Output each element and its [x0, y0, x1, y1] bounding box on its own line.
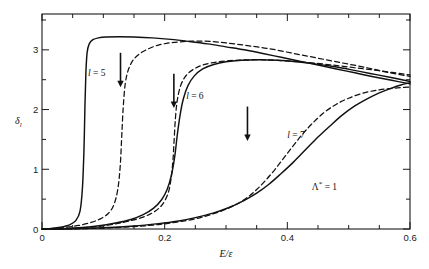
curve-l-6-dashed [42, 60, 410, 229]
curve-l-7-solid [42, 83, 410, 229]
resonance-arrow-3 [244, 107, 250, 141]
y-axis-subscript: l [20, 121, 22, 129]
lambda-annotation: Λ* = 1 [312, 180, 337, 192]
y-tick-label-1: 1 [33, 164, 38, 175]
curve-label-l5-rest: = 5 [91, 68, 106, 78]
curve-label-l7: l = 7 [287, 130, 305, 140]
x-tick-label-3: 0.6 [404, 232, 417, 243]
lambda-value: = 1 [322, 182, 337, 192]
x-axis-title: E/ε [220, 248, 233, 259]
curve-label-l6: l = 6 [186, 91, 204, 101]
x-tick-label-1: 0.2 [158, 232, 171, 243]
curve-l-6-solid [42, 60, 410, 229]
x-tick-label-0: 0 [40, 232, 45, 243]
y-axis-title: δl [15, 115, 22, 129]
curve-label-l7-rest: = 7 [290, 130, 305, 140]
data-curves [42, 37, 410, 229]
y-tick-label-2: 2 [33, 104, 38, 115]
curve-label-l5: l = 5 [88, 68, 106, 78]
resonance-arrow-2 [171, 74, 177, 108]
phase-shift-plot: 0 0.2 0.4 0.6 0 1 2 3 E/ε δl l = 5 l = 6… [0, 0, 429, 269]
y-tick-label-0: 0 [33, 224, 38, 235]
lambda-symbol: Λ [312, 182, 319, 192]
x-tick-label-2: 0.4 [281, 232, 294, 243]
curve-l-7-dashed [42, 87, 410, 229]
y-tick-label-3: 3 [33, 44, 38, 55]
curve-label-l6-rest: = 6 [189, 91, 204, 101]
plot-canvas [0, 0, 429, 269]
resonance-arrow-1 [117, 53, 123, 87]
